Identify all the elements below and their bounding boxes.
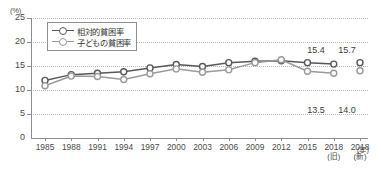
data-point-marker <box>226 60 232 66</box>
x-tickmark-10 <box>308 138 309 141</box>
chart-legend: 相対的貧困率 子どもの貧困率 <box>47 22 137 51</box>
x-tickmark-6 <box>203 138 204 141</box>
x-tickmark-1 <box>71 138 72 141</box>
x-axis-unit-label: (年) <box>357 143 369 154</box>
legend-item-child-poverty-rate: 子どもの貧困率 <box>52 36 131 47</box>
x-tickmark-0 <box>45 138 46 141</box>
x-tickmark-11 <box>334 138 335 141</box>
data-point-marker <box>226 67 232 73</box>
data-point-marker <box>305 60 311 66</box>
data-point-marker <box>68 73 74 79</box>
legend-line-marker-icon <box>52 37 74 47</box>
value-label-child-2018-new: 14.0 <box>330 105 364 115</box>
data-point-marker <box>42 83 48 89</box>
x-tickmark-8 <box>255 138 256 141</box>
x-tickmark-7 <box>229 138 230 141</box>
data-point-marker <box>331 70 337 76</box>
data-point-marker <box>121 69 127 75</box>
data-point-marker <box>357 68 363 74</box>
x-tickmark-9 <box>281 138 282 141</box>
data-point-marker <box>331 61 337 67</box>
value-label-relative-2018-new: 15.7 <box>330 45 364 55</box>
data-point-marker <box>252 60 258 66</box>
x-tickmark-5 <box>176 138 177 141</box>
data-point-marker <box>305 68 311 74</box>
x-tickmark-2 <box>98 138 99 141</box>
data-point-marker <box>357 60 363 66</box>
x-tickmark-12 <box>360 138 361 141</box>
legend-line-marker-icon <box>52 26 74 36</box>
value-label-child-2018-old: 13.5 <box>299 105 333 115</box>
data-point-marker <box>147 71 153 77</box>
data-point-marker <box>95 74 101 80</box>
data-point-marker <box>173 66 179 72</box>
x-tickmark-3 <box>124 138 125 141</box>
value-label-relative-2018-old: 15.4 <box>299 45 333 55</box>
x-tickmark-4 <box>150 138 151 141</box>
legend-label-child-poverty-rate: 子どもの貧困率 <box>77 36 131 48</box>
legend-item-relative-poverty-rate: 相対的貧困率 <box>52 25 131 36</box>
data-point-marker <box>121 76 127 82</box>
data-point-marker <box>200 69 206 75</box>
series-line-1 <box>45 60 334 86</box>
poverty-rate-line-chart: (%) 25 20 15 10 5 0 相対的貧困率 子どもの貧困率 15.4 … <box>0 0 381 173</box>
data-point-marker <box>278 57 284 63</box>
